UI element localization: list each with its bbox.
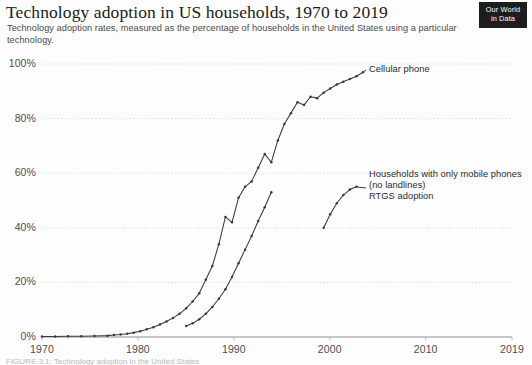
- data-point: [270, 191, 273, 194]
- series-line-0: [42, 72, 363, 336]
- data-point: [119, 333, 122, 336]
- data-point: [139, 330, 142, 333]
- data-point: [329, 87, 332, 90]
- data-point: [198, 318, 201, 321]
- x-tick-label-1970: 1970: [22, 343, 62, 355]
- x-tick-label-2010: 2010: [406, 343, 446, 355]
- data-point: [309, 96, 312, 99]
- x-tick-label-2000: 2000: [310, 343, 350, 355]
- data-point: [257, 166, 260, 169]
- x-tick-label-2019: 2019: [492, 343, 532, 355]
- series-label-mobile-only-line-1: Households with only mobile phones: [369, 169, 522, 180]
- data-point: [185, 325, 188, 328]
- series-line-1: [186, 192, 271, 326]
- data-point: [296, 101, 299, 104]
- data-point: [342, 80, 345, 83]
- data-point: [316, 97, 319, 100]
- data-point: [349, 78, 352, 81]
- data-point: [257, 220, 260, 223]
- data-point: [263, 153, 266, 156]
- data-point: [211, 306, 214, 309]
- y-tick-label-0: 0%: [0, 330, 36, 342]
- data-point: [152, 326, 155, 329]
- data-point: [237, 262, 240, 265]
- data-point: [80, 335, 83, 338]
- data-point: [67, 335, 70, 338]
- x-axis-line: [42, 337, 512, 341]
- data-point: [263, 206, 266, 209]
- data-point: [205, 278, 208, 281]
- data-point: [146, 328, 149, 331]
- data-point: [237, 197, 240, 200]
- x-tick-label-1980: 1980: [118, 343, 158, 355]
- data-point: [198, 292, 201, 295]
- series-label-mobile-only-line-2: (no landlines): [369, 180, 522, 191]
- data-point: [270, 161, 273, 164]
- series-label-rtgs-adoption: RTGS adoption: [369, 191, 522, 202]
- data-point: [178, 313, 181, 316]
- data-point: [231, 221, 234, 224]
- x-tick-label-1990: 1990: [214, 343, 254, 355]
- data-series-layer: [41, 71, 365, 338]
- y-tick-label-40: 40%: [0, 221, 36, 233]
- figure-caption: FIGURE 3.1: Technology adoption in the U…: [6, 357, 199, 365]
- data-point: [224, 288, 227, 291]
- data-point: [132, 331, 135, 334]
- data-point: [329, 213, 332, 216]
- annotation-leader-lines: [356, 70, 366, 188]
- data-point: [303, 104, 306, 107]
- data-point: [336, 202, 339, 205]
- data-point: [250, 235, 253, 238]
- data-point: [191, 322, 194, 325]
- y-tick-label-100: 100%: [0, 57, 36, 69]
- data-point: [106, 334, 109, 337]
- data-point: [126, 332, 129, 335]
- data-point: [159, 323, 162, 326]
- y-tick-label-80: 80%: [0, 112, 36, 124]
- leader-mobile-only: [356, 187, 366, 188]
- data-point: [185, 307, 188, 310]
- data-point: [191, 300, 194, 303]
- chart-page: Technology adoption in US households, 19…: [0, 0, 532, 365]
- y-tick-label-60: 60%: [0, 166, 36, 178]
- data-point: [41, 335, 44, 338]
- series-line-2: [324, 187, 357, 228]
- data-point: [231, 276, 234, 279]
- data-point: [283, 123, 286, 126]
- data-point: [277, 139, 280, 142]
- series-label-cellular-phone: Cellular phone: [369, 64, 430, 75]
- y-tick-label-20: 20%: [0, 275, 36, 287]
- data-point: [113, 334, 116, 337]
- data-point: [342, 194, 345, 197]
- data-point: [218, 298, 221, 301]
- data-point: [244, 248, 247, 251]
- series-label-mobile-only: Households with only mobile phones (no l…: [369, 169, 522, 203]
- data-point: [336, 83, 339, 86]
- data-point: [322, 227, 325, 230]
- data-point: [250, 180, 253, 183]
- data-point: [93, 335, 96, 338]
- data-point: [224, 216, 227, 219]
- data-point: [211, 265, 214, 268]
- data-point: [244, 186, 247, 189]
- data-point: [205, 313, 208, 316]
- data-point: [54, 335, 57, 338]
- data-point: [349, 188, 352, 191]
- data-point: [172, 317, 175, 320]
- data-point: [165, 320, 168, 323]
- data-point: [322, 91, 325, 94]
- data-point: [218, 243, 221, 246]
- data-point: [290, 112, 293, 115]
- data-point: [355, 75, 358, 78]
